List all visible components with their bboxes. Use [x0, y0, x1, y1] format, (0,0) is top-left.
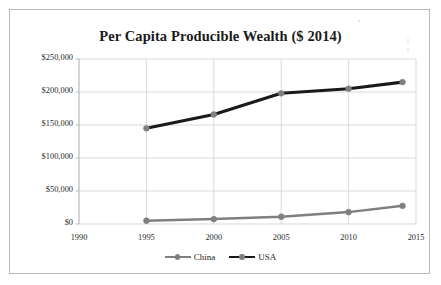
data-point-usa [144, 125, 150, 131]
series-line-usa [146, 82, 402, 128]
data-point-usa [346, 86, 352, 92]
chart-container: Per Capita Producible Wealth ($ 2014) $0… [9, 9, 430, 274]
data-point-china [400, 203, 406, 209]
y-axis-label: $0 [15, 218, 73, 227]
y-axis-label: $250,000 [15, 53, 73, 62]
data-point-usa [211, 112, 217, 118]
legend-item-china[interactable]: China [165, 252, 216, 262]
y-axis-label: $50,000 [15, 185, 73, 194]
chart-legend: China USA [10, 252, 431, 262]
legend-marker-china [175, 254, 181, 260]
plot-area: $0$50,000$100,000$150,000$200,000$250,00… [10, 10, 431, 275]
scan-artifact [407, 38, 409, 44]
x-axis-label: 2005 [261, 233, 301, 242]
legend-label-usa: USA [258, 252, 276, 262]
data-point-china [211, 216, 217, 222]
series-line-china [146, 206, 402, 221]
x-axis-label: 2000 [194, 233, 234, 242]
data-point-china [346, 209, 352, 215]
scan-artifact [358, 20, 360, 22]
data-point-china [278, 214, 284, 220]
y-axis-label: $150,000 [15, 119, 73, 128]
x-axis-label: 1995 [126, 233, 166, 242]
legend-marker-usa [239, 254, 245, 260]
legend-item-usa[interactable]: USA [229, 252, 276, 262]
data-point-china [144, 218, 150, 224]
legend-swatch-china [165, 253, 191, 262]
x-axis-label: 2015 [396, 233, 436, 242]
x-axis-label: 1990 [59, 233, 99, 242]
scan-artifact [407, 48, 409, 53]
data-point-usa [278, 90, 284, 96]
y-axis-label: $200,000 [15, 86, 73, 95]
legend-swatch-usa [229, 253, 255, 262]
legend-label-china: China [194, 252, 216, 262]
y-axis-label: $100,000 [15, 152, 73, 161]
x-axis-label: 2010 [329, 233, 369, 242]
data-point-usa [400, 79, 406, 85]
